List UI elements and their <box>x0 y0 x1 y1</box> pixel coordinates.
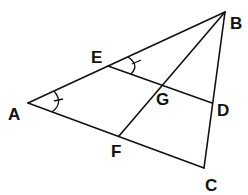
point-label-A: A <box>8 105 20 124</box>
segment-AB <box>28 12 225 103</box>
point-label-B: B <box>230 14 242 33</box>
point-label-E: E <box>91 48 102 67</box>
point-label-D: D <box>217 101 229 120</box>
point-label-C: C <box>205 176 217 195</box>
angle-arc-E <box>128 57 135 74</box>
segment-BF <box>119 12 225 136</box>
geometry-diagram: A B C D E F G <box>0 0 248 195</box>
point-label-F: F <box>111 142 121 161</box>
angle-arc-A <box>52 91 59 112</box>
point-label-G: G <box>156 90 169 109</box>
segment-BC <box>204 12 225 168</box>
